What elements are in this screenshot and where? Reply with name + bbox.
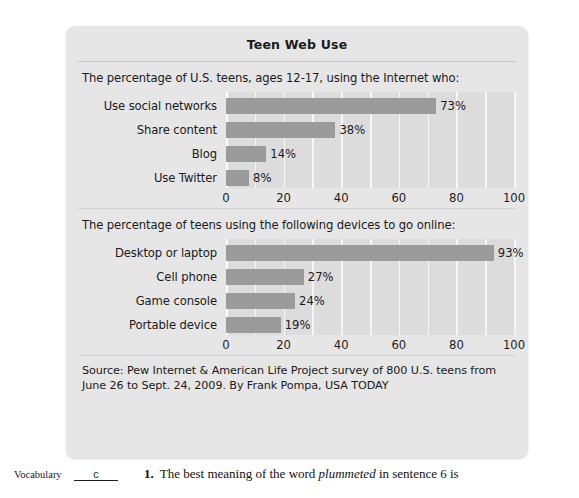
bar-value-label: 14% [270, 147, 296, 161]
x-tick-60: 60 [391, 191, 406, 205]
question-text-before: The best meaning of the word [160, 466, 319, 481]
chart-2-x-axis: 020406080100 [226, 335, 514, 355]
bar-label: Use social networks [80, 99, 226, 113]
bar-label: Share content [80, 123, 226, 137]
chart-2-rows: Desktop or laptop93%Cell phone27%Game co… [80, 243, 514, 335]
bar-track: 24% [226, 291, 514, 311]
bar [226, 293, 295, 309]
bar-value-label: 27% [308, 270, 334, 284]
bar-track: 38% [226, 120, 514, 140]
bar [226, 245, 494, 261]
bar [226, 146, 266, 162]
chart-1-intro: The percentage of U.S. teens, ages 12-17… [80, 62, 514, 92]
bar [226, 269, 304, 285]
bar-label: Blog [80, 147, 226, 161]
x-tick-0: 0 [222, 338, 229, 352]
x-tick-40: 40 [334, 191, 349, 205]
bar-row: Use Twitter8% [80, 168, 514, 188]
bar-value-label: 24% [299, 294, 325, 308]
x-tick-80: 80 [449, 191, 464, 205]
question-text-after: in sentence 6 is [376, 466, 459, 481]
bar [226, 170, 249, 186]
x-tick-20: 20 [276, 191, 291, 205]
bar [226, 317, 281, 333]
bar [226, 122, 335, 138]
bar-value-label: 38% [339, 123, 365, 137]
bar-row: Desktop or laptop93% [80, 243, 514, 263]
gridline-100 [514, 92, 516, 188]
page-title: Teen Web Use [80, 26, 514, 61]
bar-row: Blog14% [80, 144, 514, 164]
bar-value-label: 73% [440, 99, 466, 113]
question-category-label: Vocabulary [0, 469, 72, 480]
bar [226, 98, 436, 114]
question-vocab-word: plummeted [319, 466, 376, 481]
bar-label: Portable device [80, 318, 226, 332]
question-row: Vocabulary c 1. The best meaning of the … [0, 466, 579, 482]
bar-track: 27% [226, 267, 514, 287]
x-tick-40: 40 [334, 338, 349, 352]
chart-1-rows: Use social networks73%Share content38%Bl… [80, 96, 514, 188]
x-tick-100: 100 [503, 338, 525, 352]
source-note: Source: Pew Internet & American Life Pro… [80, 356, 514, 394]
x-tick-60: 60 [391, 338, 406, 352]
question-text: The best meaning of the word plummeted i… [160, 466, 459, 482]
x-tick-0: 0 [222, 191, 229, 205]
chart-2: Desktop or laptop93%Cell phone27%Game co… [80, 239, 514, 355]
x-tick-80: 80 [449, 338, 464, 352]
bar-row: Share content38% [80, 120, 514, 140]
bar-label: Use Twitter [80, 171, 226, 185]
bar-value-label: 19% [285, 318, 311, 332]
bar-track: 19% [226, 315, 514, 335]
chart-2-intro: The percentage of teens using the follow… [80, 209, 514, 239]
chart-1-x-axis: 020406080100 [226, 188, 514, 208]
bar-row: Use social networks73% [80, 96, 514, 116]
bar-row: Game console24% [80, 291, 514, 311]
bar-row: Cell phone27% [80, 267, 514, 287]
bar-track: 93% [226, 243, 514, 263]
x-tick-100: 100 [503, 191, 525, 205]
bar-label: Desktop or laptop [80, 246, 226, 260]
bar-label: Game console [80, 294, 226, 308]
chart-1: Use social networks73%Share content38%Bl… [80, 92, 514, 208]
bar-track: 14% [226, 144, 514, 164]
question-number: 1. [144, 466, 154, 482]
bar-row: Portable device19% [80, 315, 514, 335]
bar-value-label: 8% [253, 171, 271, 185]
bar-label: Cell phone [80, 270, 226, 284]
bar-track: 73% [226, 96, 514, 116]
bar-value-label: 93% [498, 246, 524, 260]
teen-web-use-infographic: Teen Web Use The percentage of U.S. teen… [66, 26, 528, 458]
x-tick-20: 20 [276, 338, 291, 352]
answer-blank[interactable]: c [74, 468, 118, 481]
bar-track: 8% [226, 168, 514, 188]
